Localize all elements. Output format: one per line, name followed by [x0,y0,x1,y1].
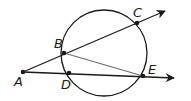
point-e [141,74,146,79]
point-d [67,71,72,76]
label-d: D [61,77,71,92]
point-c [135,21,140,26]
label-c: C [133,5,143,20]
label-e: E [148,62,157,77]
circle [61,10,147,96]
label-b: B [54,36,63,51]
secant-diagram: A B C D E [0,0,191,101]
label-a: A [13,74,23,89]
point-b [62,51,67,56]
chord-be [64,53,143,76]
ray-ac [23,11,165,72]
